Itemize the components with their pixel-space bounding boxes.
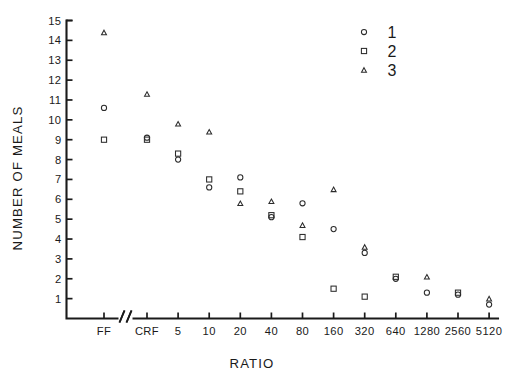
- x-tick-label: 20: [234, 325, 247, 337]
- legend-label: 2: [388, 43, 397, 60]
- y-axis-ticks: 123456789101112131415: [48, 15, 72, 305]
- series-2: [101, 137, 460, 299]
- y-tick-label: 5: [55, 213, 62, 225]
- x-axis-ticks: FFCRF510204080160320640128025605120: [97, 311, 503, 337]
- y-tick-label: 3: [55, 253, 62, 265]
- marker-circle: [238, 175, 243, 180]
- marker-triangle: [362, 245, 367, 250]
- marker-square: [362, 294, 367, 299]
- axis-lines: [67, 21, 499, 319]
- scatter-plot-figure: 123456789101112131415 FFCRF5102040801603…: [0, 0, 509, 381]
- x-tick-label: 1280: [414, 325, 441, 337]
- marker-square: [207, 177, 212, 182]
- x-tick-label: 2560: [445, 325, 472, 337]
- marker-triangle: [238, 201, 243, 206]
- x-tick-label: 40: [265, 325, 278, 337]
- marker-triangle: [269, 199, 274, 204]
- x-tick-label: 80: [296, 325, 309, 337]
- marker-square-legend: [361, 48, 366, 53]
- marker-triangle: [207, 129, 212, 134]
- x-tick-label: 5: [175, 325, 182, 337]
- y-tick-label: 14: [48, 34, 61, 46]
- y-tick-label: 4: [55, 233, 62, 245]
- marker-circle: [144, 135, 149, 140]
- marker-square: [331, 286, 336, 291]
- marker-triangle: [300, 223, 305, 228]
- marker-square: [101, 137, 106, 142]
- marker-square: [238, 189, 243, 194]
- x-tick-label: 5120: [476, 325, 503, 337]
- x-tick-label: 640: [386, 325, 406, 337]
- marker-circle: [455, 292, 460, 297]
- y-tick-label: 2: [55, 273, 62, 285]
- legend-label: 3: [388, 62, 397, 79]
- data-points: [101, 30, 491, 307]
- x-tick-label: FF: [97, 325, 111, 337]
- marker-circle: [362, 250, 367, 255]
- marker-triangle: [176, 122, 181, 127]
- axis-break-slash-2b: [127, 311, 132, 323]
- marker-square: [300, 234, 305, 239]
- marker-circle: [424, 290, 429, 295]
- y-axis-title: NUMBER OF MEALS: [10, 106, 25, 251]
- x-tick-label: 160: [324, 325, 344, 337]
- marker-circle: [176, 157, 181, 162]
- marker-triangle: [424, 275, 429, 280]
- x-axis-title: RATIO: [229, 356, 274, 371]
- marker-square: [176, 151, 181, 156]
- y-tick-label: 13: [48, 54, 61, 66]
- legend-label: 1: [388, 24, 397, 41]
- x-tick-label: 320: [355, 325, 375, 337]
- marker-circle: [331, 227, 336, 232]
- y-tick-label: 10: [48, 114, 61, 126]
- marker-circle: [101, 105, 106, 110]
- axis-break-slash-1b: [120, 311, 125, 323]
- y-tick-label: 8: [55, 154, 62, 166]
- y-tick-label: 12: [48, 74, 61, 86]
- axes: [67, 21, 499, 319]
- series-1: [101, 105, 491, 307]
- y-tick-label: 11: [49, 94, 61, 106]
- y-tick-label: 6: [55, 193, 62, 205]
- y-tick-label: 7: [55, 173, 62, 185]
- marker-circle: [269, 215, 274, 220]
- y-tick-label: 9: [55, 134, 62, 146]
- marker-circle: [300, 201, 305, 206]
- marker-circle: [393, 276, 398, 281]
- y-tick-label: 15: [48, 15, 61, 27]
- legend: 123: [361, 24, 396, 79]
- y-tick-label: 1: [55, 293, 62, 305]
- plot-canvas: 123456789101112131415 FFCRF5102040801603…: [0, 0, 509, 381]
- marker-circle: [487, 302, 492, 307]
- x-tick-label: CRF: [135, 325, 159, 337]
- marker-circle: [207, 185, 212, 190]
- marker-triangle: [145, 92, 150, 97]
- marker-triangle: [487, 296, 492, 301]
- marker-triangle: [102, 30, 107, 35]
- marker-triangle: [331, 187, 336, 192]
- marker-circle-legend: [361, 29, 366, 34]
- marker-triangle-legend: [362, 68, 367, 73]
- x-tick-label: 10: [203, 325, 216, 337]
- series-3: [102, 30, 492, 301]
